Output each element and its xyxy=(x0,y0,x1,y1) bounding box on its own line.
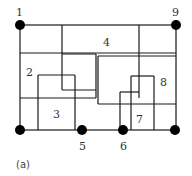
region-label-7: 7 xyxy=(136,113,143,126)
node-5 xyxy=(77,125,87,135)
node-label-6: 6 xyxy=(120,140,127,153)
node-label-1: 1 xyxy=(16,6,23,19)
node-6 xyxy=(118,125,128,135)
partition-lines xyxy=(20,25,176,130)
floorplan-diagram: 1 9 5 6 2 3 4 7 8 (a) xyxy=(0,0,192,176)
region-label-3: 3 xyxy=(53,108,60,121)
region-label-4: 4 xyxy=(103,36,110,49)
node-label-9: 9 xyxy=(172,6,179,19)
figure-caption: (a) xyxy=(16,159,30,170)
region-label-8: 8 xyxy=(160,76,167,89)
node-9 xyxy=(171,20,181,30)
region-label-2: 2 xyxy=(26,66,33,79)
node-label-5: 5 xyxy=(79,140,86,153)
node-bottom-left xyxy=(15,125,25,135)
node-1 xyxy=(15,20,25,30)
node-bottom-right xyxy=(170,125,180,135)
